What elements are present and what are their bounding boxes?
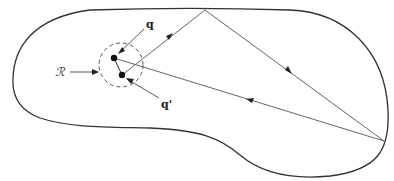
- ray-arrow-down-icon: [285, 66, 292, 74]
- diagram-canvas: q q' ℛ: [0, 0, 394, 181]
- ray-arrow-up-icon: [166, 33, 173, 40]
- q-label: q: [146, 18, 154, 31]
- ray-segment-2: [205, 10, 384, 141]
- point-q-prime: [119, 72, 125, 78]
- point-q: [111, 55, 117, 61]
- region-label: ℛ: [55, 65, 66, 79]
- region-leader-arrow-icon: [92, 69, 99, 75]
- q-prime-label: q': [161, 98, 172, 111]
- ray-segment-1: [122, 10, 205, 75]
- closed-boundary-curve: [13, 9, 388, 178]
